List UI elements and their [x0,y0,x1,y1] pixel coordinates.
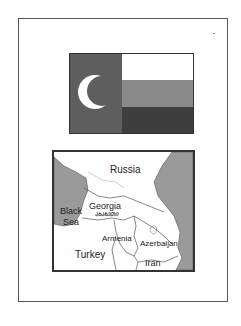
label-region-script: ᲐᲮᲐᲖᲔᲗᲘ [95,212,118,217]
speck [213,33,215,34]
flag-stripe-top [122,54,193,80]
flag-image [69,53,194,134]
flag-stripe-bottom [122,107,193,134]
crescent-icon [70,54,122,133]
label-russia: Russia [110,165,141,175]
flag-hoist [70,54,122,133]
region-map: Russia Georgia ᲐᲮᲐᲖᲔᲗᲘ Black Sea Armenia… [52,150,195,272]
flag-stripe-middle [122,80,193,107]
label-azerbaijan: Azerbaijan [140,240,178,248]
label-black-sea-line2: Sea [63,218,79,227]
label-turkey: Turkey [75,250,105,260]
label-iran: Iran [145,259,161,268]
label-georgia: Georgia [89,202,121,211]
label-black-sea-line1: Black [60,207,82,216]
label-armenia: Armenia [102,235,132,243]
